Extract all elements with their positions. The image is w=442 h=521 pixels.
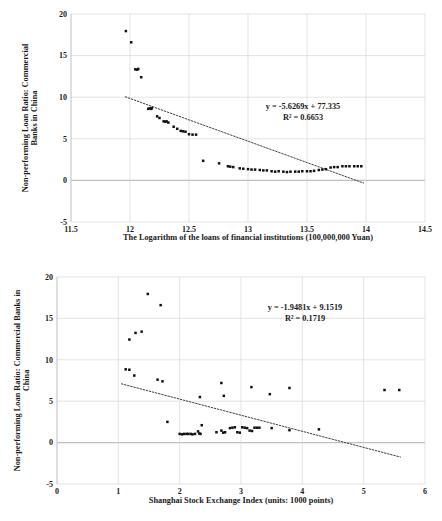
figure-caption-partial: [0, 512, 442, 521]
data-point: [158, 117, 161, 120]
data-point: [178, 433, 181, 436]
data-point: [124, 368, 127, 371]
data-point: [282, 170, 285, 173]
y-tick-label: 15: [45, 314, 53, 323]
data-point: [218, 162, 221, 165]
data-point: [229, 427, 232, 430]
trendline: [121, 384, 400, 457]
data-point: [234, 426, 237, 429]
data-point: [250, 168, 253, 171]
data-point: [191, 133, 194, 136]
data-point: [191, 433, 194, 436]
regression-equation-label: y = -1.9481x + 9.1519: [268, 303, 342, 312]
x-tick-label: 0: [55, 487, 59, 496]
data-point: [329, 166, 332, 169]
x-tick-label: 3: [239, 487, 243, 496]
data-point: [130, 41, 133, 44]
y-tick-label: 20: [45, 273, 53, 282]
data-point: [325, 168, 328, 171]
data-point: [250, 386, 253, 389]
data-point: [321, 168, 324, 171]
data-point: [182, 130, 185, 133]
r-squared-label: R² = 0.6653: [283, 113, 323, 122]
y-axis-title: China: [22, 369, 31, 392]
data-point: [336, 166, 339, 169]
x-tick-label: 1: [116, 487, 120, 496]
data-point: [238, 167, 241, 170]
data-point: [188, 133, 191, 136]
data-point: [333, 166, 336, 169]
data-point: [167, 121, 170, 124]
data-point: [215, 431, 218, 434]
data-point: [232, 166, 235, 169]
data-point: [288, 387, 291, 390]
data-point: [288, 429, 291, 432]
data-point: [270, 427, 273, 430]
x-tick-label: 4: [300, 487, 304, 496]
data-point: [246, 427, 249, 430]
data-point: [179, 130, 182, 133]
data-point: [223, 395, 226, 398]
data-point: [133, 374, 136, 377]
data-point: [251, 430, 254, 433]
data-point: [183, 433, 186, 436]
data-point: [256, 426, 258, 429]
data-point: [128, 368, 131, 371]
data-point: [356, 165, 359, 168]
data-point: [289, 170, 292, 173]
data-point: [383, 389, 386, 392]
data-point: [313, 170, 316, 173]
data-point: [236, 431, 239, 434]
y-tick-label: -5: [46, 480, 53, 489]
data-point: [286, 171, 289, 174]
data-point: [199, 396, 202, 399]
data-point: [156, 378, 159, 381]
data-point: [262, 169, 265, 172]
scatter-plot-sse: 012345620151050-5Shanghai Stock Exchange…: [0, 258, 442, 513]
x-tick-label: 14.5: [418, 225, 432, 234]
data-point: [318, 169, 321, 172]
data-point: [274, 170, 277, 173]
data-point: [156, 115, 159, 118]
data-point: [220, 382, 223, 385]
x-tick-label: 5: [362, 487, 366, 496]
data-point: [202, 160, 205, 163]
data-point: [140, 76, 143, 79]
data-point: [242, 168, 245, 171]
data-point: [353, 165, 356, 168]
regression-equation-label: y = -5.6269x + 77.335: [266, 102, 340, 111]
data-point: [270, 170, 273, 173]
data-point: [345, 165, 348, 168]
data-point: [297, 170, 300, 173]
data-point: [128, 338, 131, 341]
data-point: [140, 330, 143, 333]
x-axis-title: The Logarithm of the loans of financial …: [123, 233, 373, 242]
y-tick-label: 10: [45, 356, 53, 365]
data-point: [294, 170, 297, 173]
data-point: [258, 426, 261, 429]
chart-bottom: 012345620151050-5Shanghai Stock Exchange…: [0, 258, 442, 513]
data-point: [318, 428, 321, 431]
r-squared-label: R² = 0.1719: [285, 314, 325, 323]
y-tick-label: 10: [59, 93, 67, 102]
data-point: [200, 424, 203, 427]
y-tick-label: 15: [59, 51, 67, 60]
data-point: [125, 30, 128, 33]
data-point: [195, 133, 198, 136]
data-point: [277, 170, 280, 173]
data-point: [248, 429, 251, 432]
data-point: [199, 433, 202, 436]
data-point: [159, 304, 162, 307]
data-point: [231, 426, 234, 429]
data-point: [266, 169, 269, 172]
data-point: [341, 165, 344, 168]
data-point: [151, 107, 154, 110]
x-axis-title: Shanghai Stock Exchange Index (units: 10…: [149, 496, 334, 505]
data-point: [254, 168, 257, 171]
data-point: [194, 433, 197, 436]
data-point: [259, 169, 262, 172]
data-point: [137, 68, 140, 71]
y-tick-label: 0: [49, 438, 53, 447]
y-tick-label: 5: [63, 135, 67, 144]
data-point: [269, 393, 272, 396]
